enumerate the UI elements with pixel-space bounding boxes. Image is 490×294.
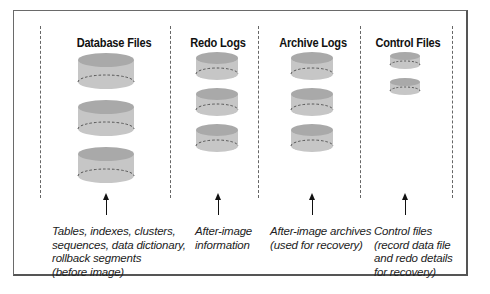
control-file-cylinder (390, 52, 420, 69)
caption-control-files: Control files (record data file and redo… (374, 225, 453, 279)
redo-log-cylinder (196, 52, 238, 80)
redo-log-cylinder (196, 124, 238, 152)
arrow-up-icon (218, 199, 219, 215)
control-file-cylinder (390, 78, 420, 95)
caption-archive-logs: After-image archives (used for recovery) (270, 225, 371, 252)
arrow-up-icon (405, 199, 406, 215)
database-file-cylinder (78, 53, 134, 89)
archive-log-cylinder (291, 124, 333, 152)
database-file-cylinder (78, 100, 134, 136)
arrow-up-icon (312, 199, 313, 215)
redo-log-cylinder (196, 88, 238, 116)
caption-redo-logs: After-image information (195, 225, 252, 252)
caption-database-files: Tables, indexes, clusters, sequences, da… (52, 225, 186, 279)
arrow-up-icon (106, 199, 107, 215)
archive-log-cylinder (291, 88, 333, 116)
database-file-cylinder (78, 147, 134, 183)
archive-log-cylinder (291, 52, 333, 80)
